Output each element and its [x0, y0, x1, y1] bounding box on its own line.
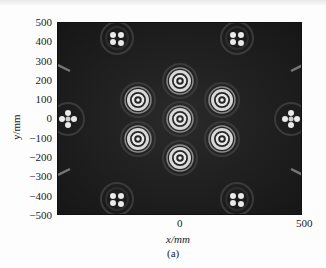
y-tick-100: 100	[36, 94, 53, 105]
y-tick-minus-500: −500	[29, 210, 52, 221]
y-tick-0: 0	[47, 113, 53, 124]
x-axis-label: x/mm	[166, 233, 190, 245]
y-tick-200: 200	[36, 75, 53, 86]
y-axis-label: y/mm	[10, 114, 22, 140]
y-tick-minus-400: −400	[29, 191, 52, 202]
y-tick-minus-200: −200	[29, 152, 52, 163]
y-tick-500: 500	[36, 17, 53, 28]
y-tick-300: 300	[36, 56, 53, 67]
intensity-plot-area	[57, 22, 302, 215]
y-tick-minus-300: −300	[29, 171, 52, 182]
x-tick-500: 500	[296, 218, 313, 229]
intensity-map	[58, 23, 302, 215]
top-edge	[0, 0, 326, 6]
y-tick-minus-100: −100	[29, 133, 52, 144]
x-tick-0: 0	[177, 218, 183, 229]
figure-caption: (a)	[167, 247, 179, 259]
y-tick-400: 400	[36, 36, 53, 47]
